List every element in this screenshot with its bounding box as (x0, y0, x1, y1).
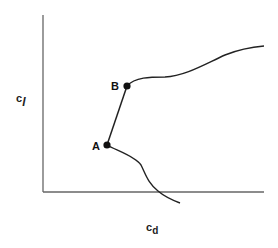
lower-curve (107, 145, 180, 203)
segment-a-b (107, 86, 127, 145)
point-a-marker (103, 141, 110, 148)
y-axis-label: cl (16, 92, 26, 109)
x-axis-label-sub: d (152, 225, 158, 236)
point-b-label: B (111, 80, 119, 92)
upper-curve (127, 46, 264, 86)
diagram-svg: B A cl cd (0, 0, 278, 248)
x-axis-label: cd (146, 221, 158, 236)
drag-polar-diagram: B A cl cd (0, 0, 278, 248)
point-b-marker (123, 82, 130, 89)
point-a-label: A (92, 140, 100, 152)
y-axis-label-sub: l (22, 95, 26, 109)
